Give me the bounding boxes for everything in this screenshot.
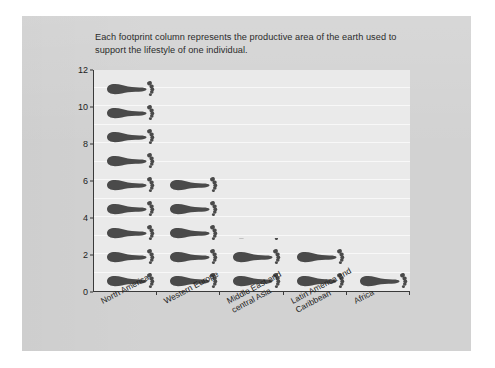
footprint-icon [356,271,410,291]
footprint-icon [229,247,283,267]
footprint-icon [103,175,157,195]
y-tick-mark [90,218,93,219]
footprint-column-clip [103,77,161,292]
x-tick-mark [156,291,157,295]
footprint-icon [103,151,157,171]
footprint-icon [103,247,157,267]
y-tick-label: 8 [83,139,88,149]
footprint-column [293,70,351,292]
footprint-icon [103,199,157,219]
x-tick-mark [283,291,284,295]
footprint-column [356,70,414,292]
y-tick-mark [90,107,93,108]
y-tick-mark [90,70,93,71]
y-tick-mark [90,144,93,145]
footprint-icon [103,103,157,123]
footprint-icon [293,247,347,267]
y-tick-label: 6 [83,176,88,186]
footprint-icon [229,238,283,243]
x-tick-mark [409,291,410,295]
footprint-icon [103,127,157,147]
footprint-column [229,70,287,292]
footprint-icon [166,247,220,267]
x-tick-mark [219,291,220,295]
y-tick-label: 10 [78,102,88,112]
x-tick-mark [346,291,347,295]
footprint-chart: Area units per person 024681012 North Am… [93,70,410,292]
footprint-icon [103,79,157,99]
footprint-icon [166,199,220,219]
footprint-icon [103,223,157,243]
y-tick-mark [90,181,93,182]
y-tick-label: 12 [78,65,88,75]
footprint-column [103,70,161,292]
footprint-column-clip [356,268,414,292]
y-tick-label: 2 [83,250,88,260]
footprint-icon [166,175,220,195]
y-tick-label: 0 [83,287,88,297]
chart-caption: Each footprint column represents the pro… [95,31,425,57]
y-tick-label: 4 [83,213,88,223]
slide-canvas: Each footprint column represents the pro… [22,16,471,351]
footprint-icon [166,223,220,243]
y-tick-mark [90,255,93,256]
footprint-column [166,70,224,292]
y-tick-mark [90,292,93,293]
